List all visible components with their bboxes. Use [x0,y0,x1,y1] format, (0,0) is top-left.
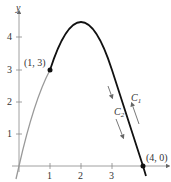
point-label-1-3: (1, 3) [24,57,46,69]
y-tick-4: 4 [7,31,12,42]
curve-gray [16,70,50,179]
c2-arrow [116,119,123,137]
y-tick-1: 1 [7,128,12,139]
y-axis-label: y [15,2,21,13]
y-tick-2: 2 [7,96,12,107]
x-tick-1: 1 [47,170,52,181]
c2-arrow-top [108,86,112,97]
c1-arrow [132,104,139,124]
point-label-4-0: (4, 0) [146,152,168,164]
point-1-3 [48,68,53,73]
x-tick-3: 3 [109,170,114,181]
x-tick-2: 2 [78,170,83,181]
y-tick-3: 3 [7,64,12,75]
chart: y 1 2 3 4 1 2 3 (1, 3) (4, 0) C1 C2 [0,0,171,182]
c1-label: C1 [131,92,141,105]
point-4-0 [141,164,146,169]
c2-label: C2 [114,106,125,119]
